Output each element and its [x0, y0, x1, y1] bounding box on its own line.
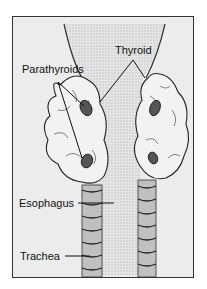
esophagus-label: Esophagus	[19, 198, 74, 209]
trachea-label: Trachea	[20, 251, 60, 262]
thyroid-label: Thyroid	[115, 45, 152, 56]
right-thyroid-lobe	[134, 74, 188, 179]
parathyroids-label: Parathyroids	[22, 64, 84, 75]
anatomy-illustration	[0, 0, 207, 289]
left-thyroid-lobe	[44, 76, 108, 183]
